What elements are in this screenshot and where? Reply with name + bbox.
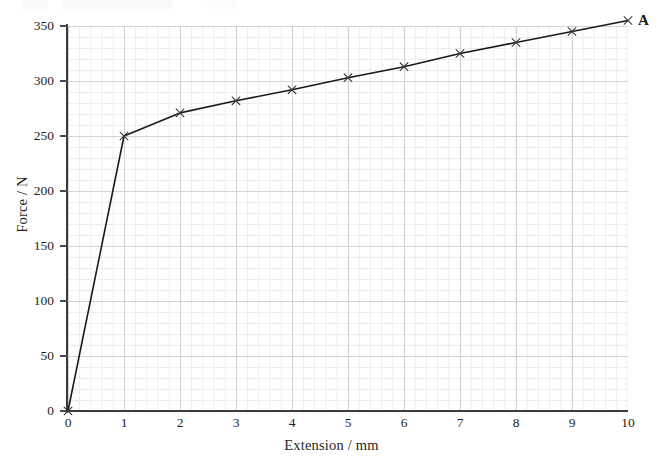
y-tick-mark	[60, 245, 68, 246]
y-tick-mark	[60, 190, 68, 191]
y-tick-label: 100	[14, 294, 54, 308]
x-tick-label: 1	[104, 416, 144, 430]
y-tick-label: 50	[14, 349, 54, 363]
x-tick-label: 3	[216, 416, 256, 430]
x-tick-label: 4	[272, 416, 312, 430]
x-tick-label: 10	[608, 416, 648, 430]
x-tick-label: 8	[496, 416, 536, 430]
x-tick-label: 2	[160, 416, 200, 430]
y-tick-label: 250	[14, 129, 54, 143]
x-axis-line	[66, 410, 628, 412]
force-extension-figure: 050100150200250300350 012345678910 Force…	[0, 0, 663, 462]
y-tick-label: 350	[14, 19, 54, 33]
y-tick-mark	[60, 300, 68, 301]
plot-area	[68, 26, 628, 411]
y-tick-mark	[60, 355, 68, 356]
y-axis-label: Force / N	[14, 145, 31, 265]
minor-gridlines	[68, 26, 628, 411]
scan-artifact-strip	[22, 0, 282, 9]
y-tick-mark	[60, 25, 68, 26]
x-axis-label: Extension / mm	[0, 437, 663, 454]
x-tick-label: 7	[440, 416, 480, 430]
endpoint-label-a: A	[638, 12, 649, 29]
x-tick-label: 5	[328, 416, 368, 430]
y-tick-mark	[60, 80, 68, 81]
major-gridlines	[68, 26, 628, 411]
x-tick-label: 0	[48, 416, 88, 430]
x-tick-label: 6	[384, 416, 424, 430]
y-tick-mark	[60, 135, 68, 136]
y-tick-label: 300	[14, 74, 54, 88]
data-point-cross	[624, 16, 632, 24]
x-tick-label: 9	[552, 416, 592, 430]
y-tick-mark	[60, 410, 68, 411]
